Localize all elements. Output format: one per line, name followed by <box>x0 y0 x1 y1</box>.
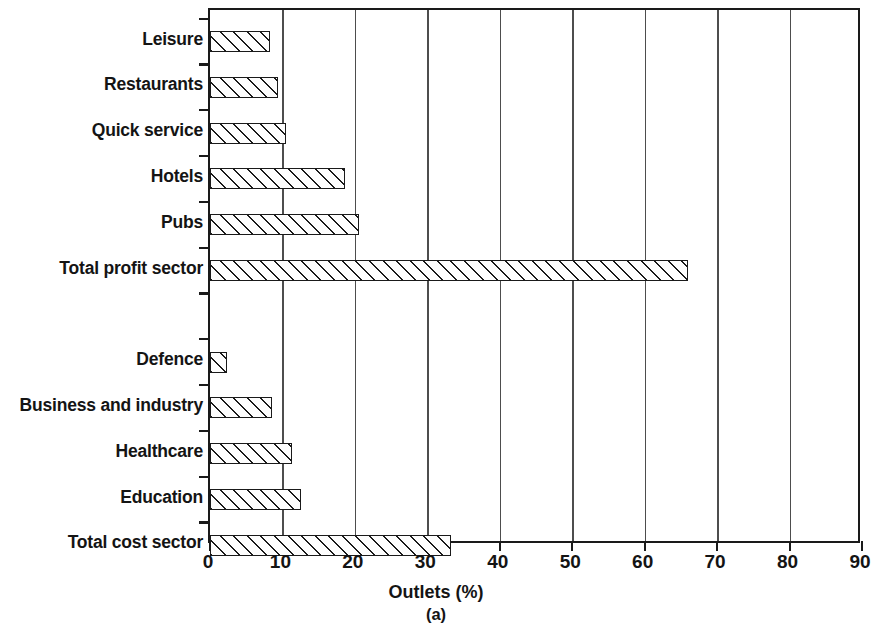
bar <box>210 443 292 464</box>
category-label: Business and industry <box>20 397 203 415</box>
y-axis-tick <box>199 201 210 203</box>
category-axis-labels: LeisureRestaurantsQuick serviceHotelsPub… <box>0 0 203 560</box>
category-label: Healthcare <box>116 443 204 461</box>
figure-caption: (a) <box>0 606 872 623</box>
bar <box>210 489 301 510</box>
plot-area <box>208 8 860 543</box>
x-axis-tick <box>571 541 573 551</box>
bar <box>210 31 270 52</box>
category-label: Leisure <box>142 31 203 49</box>
bar <box>210 168 345 189</box>
y-axis-tick <box>199 247 210 249</box>
y-axis-tick <box>199 384 210 386</box>
x-axis-tick-label: 10 <box>270 552 291 571</box>
y-axis-tick <box>199 155 210 157</box>
x-axis-tick <box>499 541 501 551</box>
y-axis-tick <box>199 521 210 523</box>
y-axis-tick <box>199 430 210 432</box>
bar <box>210 260 688 281</box>
category-label: Restaurants <box>104 76 203 94</box>
gridline <box>717 10 719 541</box>
bar <box>210 397 272 418</box>
bar <box>210 123 286 144</box>
y-axis-tick <box>199 18 210 20</box>
x-axis-tick-label: 30 <box>415 552 436 571</box>
category-label: Education <box>120 489 203 507</box>
y-axis-tick <box>199 292 210 294</box>
x-axis-tick-label: 60 <box>632 552 653 571</box>
category-label: Hotels <box>151 168 203 186</box>
bar <box>210 352 227 373</box>
category-label: Quick service <box>92 122 203 140</box>
y-axis-tick <box>199 338 210 340</box>
x-axis-tick-label: 50 <box>560 552 581 571</box>
y-axis-tick <box>199 63 210 65</box>
x-axis-tick-label: 40 <box>487 552 508 571</box>
x-axis-tick-label: 80 <box>777 552 798 571</box>
y-axis-tick <box>199 109 210 111</box>
bar <box>210 214 359 235</box>
x-axis-tick-label: 70 <box>705 552 726 571</box>
x-axis-tick <box>861 541 863 551</box>
x-axis-tick <box>644 541 646 551</box>
bar <box>210 77 278 98</box>
x-axis-title: Outlets (%) <box>0 583 872 601</box>
x-axis-tick-label: 20 <box>342 552 363 571</box>
x-axis-tick <box>716 541 718 551</box>
category-label: Pubs <box>161 214 203 232</box>
x-axis-tick <box>789 541 791 551</box>
category-label: Total cost sector <box>68 534 203 552</box>
category-label: Defence <box>136 351 203 369</box>
y-axis-tick <box>199 476 210 478</box>
category-label: Total profit sector <box>59 260 203 278</box>
x-axis-tick-label: 90 <box>849 552 870 571</box>
x-axis-tick-label: 0 <box>203 552 214 571</box>
bar-chart-figure: LeisureRestaurantsQuick serviceHotelsPub… <box>0 0 872 627</box>
gridline <box>790 10 792 541</box>
